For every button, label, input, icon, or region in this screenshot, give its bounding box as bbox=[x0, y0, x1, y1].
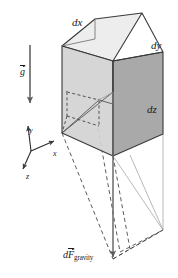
axis-x-line bbox=[31, 141, 54, 151]
label-gravity-vector: g bbox=[20, 67, 25, 77]
label-force-symbol: F bbox=[68, 249, 74, 260]
thin-ray-edge bbox=[130, 155, 163, 230]
physics-diagram: dx dy dz y x z g dFgravity bbox=[0, 0, 178, 278]
axis-z-line bbox=[23, 151, 31, 169]
label-gravity-symbol: g bbox=[20, 66, 25, 77]
thin-ray-diag bbox=[113, 156, 163, 230]
coordinate-axes bbox=[23, 126, 54, 169]
label-dz: dz bbox=[147, 104, 157, 115]
inner-element-node-a bbox=[66, 91, 69, 94]
vector-arrow-overbar-F bbox=[68, 248, 74, 249]
label-dx: dx bbox=[72, 17, 82, 28]
label-dy: dy bbox=[151, 40, 161, 51]
label-force-gravity: dFgravity bbox=[63, 250, 93, 262]
projection-base-right bbox=[113, 230, 163, 259]
label-axis-x: x bbox=[53, 150, 57, 158]
label-axis-z: z bbox=[26, 173, 29, 181]
projection-edge-center bbox=[113, 156, 130, 249]
label-force-subscript: gravity bbox=[74, 254, 93, 262]
vector-arrow-overbar-g bbox=[20, 65, 25, 66]
label-axis-y: y bbox=[29, 127, 33, 135]
cube-face-front-left bbox=[62, 46, 113, 156]
